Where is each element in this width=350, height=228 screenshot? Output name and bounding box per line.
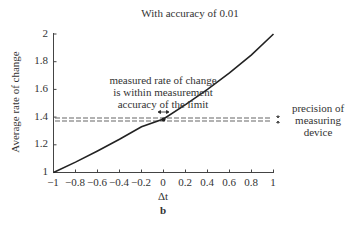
accuracy-arrow-icon — [158, 111, 169, 114]
y-tick-label: 1.4 — [26, 110, 48, 122]
precision-bracket-icon — [277, 115, 280, 124]
y-tick-label: 1.8 — [26, 54, 48, 66]
x-axis-label: Δt — [153, 190, 173, 202]
annotation-measured-rate: measured rate of change is within measur… — [73, 74, 253, 110]
annotation-line: device — [286, 126, 350, 138]
y-tick-label: 1.2 — [26, 137, 48, 149]
annotation-line: measuring — [286, 114, 350, 126]
y-axis-label: Average rate of change — [9, 37, 21, 167]
annotation-line: precision of — [286, 102, 350, 114]
limit-point — [162, 118, 166, 122]
annotation-precision: precision of measuring device — [286, 102, 350, 138]
chart-title: With accuracy of 0.01 — [0, 7, 350, 19]
y-tick-label: 2 — [26, 27, 48, 39]
annotation-line: is within measurement — [73, 86, 253, 98]
x-tick-label: 1 — [258, 176, 288, 188]
y-tick-label: 1.6 — [26, 82, 48, 94]
subfigure-label: b — [153, 204, 173, 216]
annotation-line: measured rate of change — [73, 74, 253, 86]
annotation-line: accuracy of the limit — [73, 98, 253, 110]
